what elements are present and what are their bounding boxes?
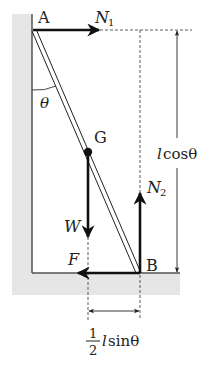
wall (12, 14, 32, 295)
horizontal-dimension-prefix: l (102, 332, 107, 350)
force-n2-label: N 2 (146, 178, 166, 198)
point-a-label: A (37, 8, 50, 27)
ladder-free-body-diagram: A G B θ N 1 N 2 W F l cosθ 1 2 l sinθ (0, 0, 211, 371)
horizontal-dimension-label: 1 2 l sinθ (86, 326, 139, 358)
force-n1-label: N 1 (94, 8, 114, 28)
force-f-label: F (67, 250, 80, 269)
point-b-label: B (146, 256, 158, 275)
point-g-label: G (94, 128, 107, 147)
angle-arc (32, 86, 56, 90)
force-w-label: W (64, 217, 82, 236)
floor (12, 273, 180, 295)
fraction-numerator: 1 (89, 326, 97, 341)
angle-theta-label: θ (40, 94, 49, 112)
vertical-dimension-label: l cosθ (157, 145, 197, 163)
vertical-dimension-text: cosθ (163, 145, 197, 163)
fraction-denominator: 2 (89, 343, 97, 358)
horizontal-dimension-text: sinθ (108, 332, 139, 350)
force-n2-subscript: 2 (160, 187, 166, 198)
force-n1-subscript: 1 (108, 17, 114, 28)
vertical-dimension-prefix: l (157, 145, 162, 163)
